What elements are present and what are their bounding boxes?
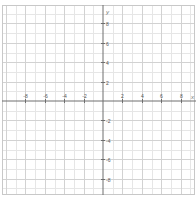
- x-tick-label: -8: [23, 93, 28, 99]
- y-tick-label: 4: [106, 60, 109, 66]
- x-tick-label: 8: [180, 93, 183, 99]
- x-tick-label: -6: [43, 93, 48, 99]
- coordinate-plane: -8-6-4-22468 8642-2-4-6-8 x y: [0, 0, 196, 197]
- y-tick-label: 8: [106, 21, 109, 27]
- x-tick-label: 6: [160, 93, 163, 99]
- y-tick-label: -6: [106, 157, 111, 163]
- y-tick-label: 2: [106, 80, 109, 86]
- x-tick-label: 4: [141, 93, 144, 99]
- y-tick-label: -2: [106, 118, 111, 124]
- plane-background: [0, 0, 196, 197]
- y-tick-label: 6: [106, 41, 109, 47]
- x-tick-label: -4: [62, 93, 67, 99]
- x-tick-label: 2: [121, 93, 124, 99]
- y-tick-label: -4: [106, 138, 111, 144]
- y-tick-label: -8: [106, 177, 111, 183]
- x-tick-label: -2: [82, 93, 87, 99]
